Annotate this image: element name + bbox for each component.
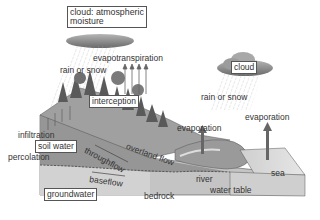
water-cycle-illustration	[0, 0, 320, 220]
river-label: river	[196, 175, 213, 184]
water-table-label: water table	[210, 186, 252, 195]
cloud-atmospheric-line2: moisture	[70, 17, 144, 26]
percolation-label: percolation	[8, 153, 50, 162]
rain-or-snow-right-label: rain or snow	[201, 93, 247, 102]
cloud-label: cloud	[231, 61, 257, 74]
infiltration-label: infiltration	[18, 131, 54, 140]
sea-label: sea	[271, 169, 285, 178]
soil-water-label: soil water	[35, 140, 77, 153]
cloud-atmospheric-moisture-label: cloud: atmospheric moisture	[67, 6, 147, 28]
rain-or-snow-left-label: rain or snow	[60, 66, 106, 75]
interception-label: interception	[89, 95, 139, 108]
cloud-left-shape	[66, 34, 134, 48]
evaporation-river-label: evaporation	[177, 124, 221, 133]
groundwater-label: groundwater	[44, 188, 97, 201]
bedrock-label: bedrock	[144, 192, 174, 201]
evaporation-sea-label: evaporation	[245, 113, 289, 122]
evapotranspiration-label: evapotranspiration	[93, 54, 163, 63]
